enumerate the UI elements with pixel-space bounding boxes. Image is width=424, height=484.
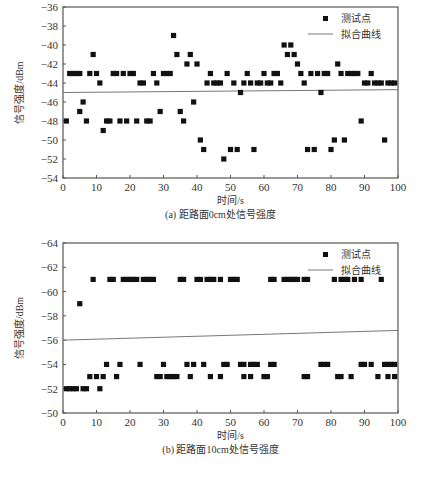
data-point [121,71,126,76]
data-point [312,147,317,152]
data-point [338,71,343,76]
data-point [201,147,206,152]
data-point [355,71,360,76]
data-point [161,362,166,367]
chart-a-svg: 0102030405060708090100−36−38−40−42−44−46… [0,0,424,226]
data-point [94,374,99,379]
data-point [158,374,163,379]
legend-label-fit: 拟合曲线 [341,264,381,276]
y-tick-label: −40 [41,39,59,51]
chart-caption: (a) 距路面0cm处信号强度 [165,208,276,221]
x-tick-label: 60 [259,181,271,193]
data-point [271,277,276,282]
x-tick-label: 50 [225,416,237,428]
data-point [335,61,340,66]
data-point [218,374,223,379]
data-point [174,374,179,379]
chart-b-svg: 0102030405060708090100−64−62−60−58−56−54… [0,236,424,460]
chart-a-signal-strength-0cm: 0102030405060708090100−36−38−40−42−44−46… [0,0,424,226]
data-point [241,80,246,85]
data-point [318,90,323,95]
data-point [77,71,82,76]
data-point [285,52,290,57]
data-point [308,71,313,76]
data-point [248,80,253,85]
data-point [362,362,367,367]
data-point [141,80,146,85]
data-point [171,33,176,38]
x-tick-label: 100 [390,181,407,193]
x-tick-label: 20 [125,181,137,193]
data-point [245,71,250,76]
data-point [379,277,384,282]
x-tick-label: 80 [326,181,338,193]
y-axis-label: 信号强度/dBm [13,61,25,123]
y-tick-label: −36 [41,1,59,13]
y-tick-label: −52 [41,383,58,395]
x-tick-label: 90 [359,181,371,193]
data-point [235,147,240,152]
data-point [151,277,156,282]
data-point [349,374,354,379]
y-tick-label: −44 [41,77,59,89]
y-tick-label: −46 [41,96,59,108]
data-point [114,71,119,76]
data-point [305,374,310,379]
data-point [151,71,156,76]
y-tick-label: −54 [41,358,59,370]
data-point [275,71,280,76]
data-point [369,71,374,76]
data-point [191,362,196,367]
data-point [134,277,139,282]
data-point [211,277,216,282]
data-point [218,277,223,282]
fit-line [63,90,398,93]
data-point [298,71,303,76]
data-point [282,42,287,47]
data-point [64,118,69,123]
data-point [241,362,246,367]
data-point [225,71,230,76]
data-point [191,99,196,104]
data-point [325,362,330,367]
data-point [158,109,163,114]
data-point [228,147,233,152]
data-point [382,137,387,142]
data-point [198,277,203,282]
data-point [91,52,96,57]
data-point [295,61,300,66]
data-point [345,277,350,282]
data-point [231,80,236,85]
data-point [124,118,129,123]
y-tick-label: −64 [41,237,59,249]
data-point [91,277,96,282]
data-point [218,80,223,85]
data-point [379,80,384,85]
data-point [131,71,136,76]
data-point [261,71,266,76]
data-point [87,71,92,76]
data-point [101,374,106,379]
data-point [305,277,310,282]
data-point [101,128,106,133]
data-point [248,374,253,379]
x-tick-label: 40 [192,416,204,428]
data-point [134,118,139,123]
y-tick-label: −38 [41,20,59,32]
x-tick-label: 70 [292,416,304,428]
data-point [251,147,256,152]
x-tick-label: 90 [359,416,371,428]
data-point [278,80,283,85]
data-point [81,99,86,104]
data-point [375,374,380,379]
data-point [352,277,357,282]
data-point [238,90,243,95]
data-point [265,374,270,379]
data-point [168,71,173,76]
x-tick-label: 20 [125,416,137,428]
data-point [208,71,213,76]
y-tick-label: −62 [41,261,58,273]
data-point [181,277,186,282]
y-tick-label: −58 [41,310,59,322]
data-point [338,374,343,379]
